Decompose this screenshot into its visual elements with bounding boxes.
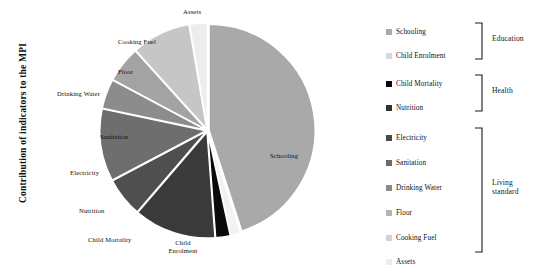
legend-label: Schooling xyxy=(396,28,426,36)
legend-item-floor[interactable]: Floor xyxy=(386,207,412,219)
legend-item-cooking-fuel[interactable]: Cooking Fuel xyxy=(386,232,437,244)
pie-label-sanitation: Sanitation xyxy=(100,133,128,141)
legend-item-child-enrolment[interactable]: Child Enrolment xyxy=(386,50,446,62)
legend-swatch-icon xyxy=(386,160,392,166)
legend-label: Floor xyxy=(396,209,412,217)
pie-label-child-mortality: Child Mortality xyxy=(88,236,131,244)
pie-label-drinking-water: Drinking Water xyxy=(57,90,100,98)
legend-label: Assets xyxy=(396,258,415,266)
legend-swatch-icon xyxy=(386,53,392,59)
legend-item-assets[interactable]: Assets xyxy=(386,256,415,268)
pie-chart xyxy=(95,18,320,243)
pie-label-electricity: Electricity xyxy=(70,169,99,177)
group-label-line1: Living xyxy=(492,178,519,187)
legend-label: Cooking Fuel xyxy=(396,234,437,242)
legend-swatch-icon xyxy=(386,105,392,111)
bracket-health xyxy=(474,74,484,112)
legend-label: Sanitation xyxy=(396,159,426,167)
legend-item-child-mortality[interactable]: Child Mortality xyxy=(386,78,442,90)
pie-svg xyxy=(95,18,320,243)
bracket-education xyxy=(474,22,484,60)
group-label-line2: standard xyxy=(492,187,519,196)
legend-item-drinking-water[interactable]: Drinking Water xyxy=(386,182,442,194)
legend-swatch-icon xyxy=(386,81,392,87)
bracket-living-standard xyxy=(474,127,484,253)
pie-label-floor: Floor xyxy=(118,68,133,76)
legend-swatch-icon xyxy=(386,210,392,216)
group-label-education: Education xyxy=(492,34,524,43)
legend-label: Drinking Water xyxy=(396,184,442,192)
chart-canvas: Contribution of indicators to the MPI As… xyxy=(0,0,546,268)
legend-swatch-icon xyxy=(386,29,392,35)
legend-swatch-icon xyxy=(386,259,392,265)
legend-item-electricity[interactable]: Electricity xyxy=(386,132,427,144)
group-label-health: Health xyxy=(492,86,513,95)
legend-label: Child Enrolment xyxy=(396,52,446,60)
pie-label-cooking-fuel: Cooking Fuel xyxy=(118,38,156,46)
pie-label-nutrition: Nutrition xyxy=(79,207,105,215)
legend-item-schooling[interactable]: Schooling xyxy=(386,26,426,38)
legend-swatch-icon xyxy=(386,235,392,241)
pie-slices xyxy=(100,23,315,238)
legend-label: Electricity xyxy=(396,134,427,142)
legend-label: Nutrition xyxy=(396,104,423,112)
legend: Schooling Child Enrolment Child Mortalit… xyxy=(386,16,546,256)
legend-label: Child Mortality xyxy=(396,80,442,88)
pie-label-assets: Assets xyxy=(183,8,201,16)
y-axis-title: Contribution of indicators to the MPI xyxy=(18,8,28,238)
legend-item-nutrition[interactable]: Nutrition xyxy=(386,102,423,114)
legend-item-sanitation[interactable]: Sanitation xyxy=(386,157,426,169)
legend-swatch-icon xyxy=(386,185,392,191)
group-label-living-standard: Living standard xyxy=(492,178,519,197)
legend-swatch-icon xyxy=(386,135,392,141)
pie-label-schooling: Schooling xyxy=(270,152,298,160)
pie-label-child-enrolment: Child Enrolment xyxy=(160,239,206,255)
